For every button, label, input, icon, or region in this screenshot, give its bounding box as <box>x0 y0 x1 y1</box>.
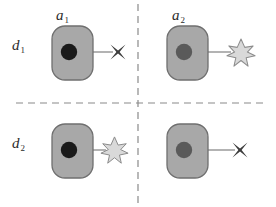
row-label-d1-sub: 1 <box>21 45 26 55</box>
quadrant-d2-a2 <box>167 124 248 178</box>
figure-canvas: a1 a2 d1 d2 <box>0 0 276 207</box>
column-label-a2-sub: 2 <box>181 15 186 25</box>
nucleus-dot <box>61 142 77 158</box>
nucleus-dot <box>176 44 192 60</box>
quadrant-d1-a2 <box>167 26 255 80</box>
column-label-a1: a1 <box>56 8 68 23</box>
starburst-marker <box>227 39 255 66</box>
row-label-d1-base: d <box>12 37 20 53</box>
column-label-a2-base: a <box>172 7 180 23</box>
nucleus-dot <box>176 142 192 158</box>
row-label-d2-sub: 2 <box>21 143 26 153</box>
row-label-d2: d2 <box>12 136 24 151</box>
column-label-a1-base: a <box>56 7 64 23</box>
quadrant-d1-a1 <box>52 26 126 80</box>
row-label-d1: d1 <box>12 38 24 53</box>
row-label-d2-base: d <box>12 135 20 151</box>
column-label-a1-sub: 1 <box>65 15 70 25</box>
column-label-a2: a2 <box>172 8 184 23</box>
diagram-svg <box>0 0 276 207</box>
quadrant-d2-a1 <box>52 124 128 178</box>
nucleus-dot <box>61 44 77 60</box>
